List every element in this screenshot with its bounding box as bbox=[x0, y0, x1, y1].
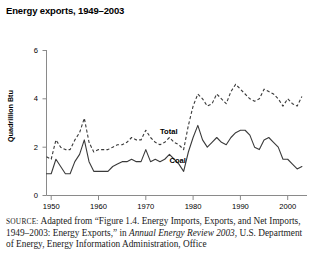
x-tick-label-1970: 1970 bbox=[137, 202, 154, 210]
chart-page: Energy exports, 1949–2003 Quadrillion Bt… bbox=[0, 0, 312, 257]
chart-plot-area: Quadrillion Btu 6 4 2 0 1950 1960 1970 1… bbox=[0, 24, 312, 210]
y-axis-title: Quadrillion Btu bbox=[6, 90, 15, 142]
x-tick-label-1980: 1980 bbox=[185, 202, 202, 210]
series-label-total: Total bbox=[160, 127, 178, 136]
y-tick-label-2: 2 bbox=[34, 143, 38, 152]
source-publication-title: Annual Energy Review 2003 bbox=[129, 228, 235, 238]
y-tick-label-0: 0 bbox=[34, 191, 38, 200]
x-tick-label-1960: 1960 bbox=[90, 202, 107, 210]
x-tick-label-2000: 2000 bbox=[279, 202, 296, 210]
source-label: SOURCE: bbox=[6, 217, 39, 226]
x-tick-label-1950: 1950 bbox=[43, 202, 60, 210]
y-tick-label-4: 4 bbox=[34, 94, 38, 103]
energy-exports-line-chart: Quadrillion Btu 6 4 2 0 1950 1960 1970 1… bbox=[0, 24, 312, 210]
y-tick-label-6: 6 bbox=[34, 46, 38, 55]
x-tick-label-1990: 1990 bbox=[232, 202, 249, 210]
page-title: Energy exports, 1949–2003 bbox=[6, 5, 124, 16]
series-label-coal: Coal bbox=[170, 156, 186, 165]
series-line-total bbox=[46, 84, 301, 159]
source-note: SOURCE: Adapted from “Figure 1.4. Energy… bbox=[6, 216, 306, 251]
